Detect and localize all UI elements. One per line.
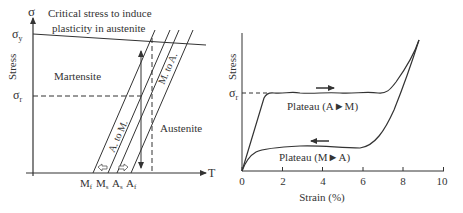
ms-line	[108, 30, 170, 173]
temperature-labels: Mf Ms As Af	[80, 177, 137, 191]
right-sigma-r-label: σr	[229, 86, 238, 102]
x-tick-labels: 0 2 4 6 8 10	[239, 175, 448, 187]
t-axis-symbol: T	[208, 166, 216, 180]
stress-strain-chart: 0 2 4 6 8 10 Strain (%) Stress σr Platea…	[226, 33, 448, 204]
sigma-axis-symbol: σ	[28, 4, 35, 19]
figure-canvas: σ T Stress σy σr Critical stress to indu…	[0, 0, 463, 213]
x-ticks	[242, 167, 444, 171]
svg-text:8: 8	[400, 175, 406, 187]
mf-line	[93, 30, 155, 173]
upper-plateau-label: Plateau (A►M)	[287, 100, 358, 113]
martensite-region-label: Martensite	[54, 70, 101, 82]
strain-axis-label: Strain (%)	[299, 191, 345, 204]
svg-text:4: 4	[320, 175, 326, 187]
svg-text:2: 2	[280, 175, 286, 187]
phase-diagram: σ T Stress σy σr Critical stress to indu…	[6, 4, 216, 191]
hollow-arrow-left	[98, 164, 107, 171]
svg-text:6: 6	[360, 175, 366, 187]
austenite-region-label: Austenite	[160, 122, 202, 134]
sigma-r-label: σr	[13, 88, 22, 104]
critical-stress-line	[33, 34, 206, 45]
svg-text:0: 0	[239, 175, 245, 187]
sigma-y-label: σy	[12, 27, 22, 43]
af-line	[131, 30, 193, 173]
critical-stress-label: Critical stress to induce plasticity in …	[48, 7, 154, 34]
right-stress-label: Stress	[226, 54, 238, 80]
stress-label: Stress	[6, 54, 18, 80]
lower-plateau-label: Plateau (M►A)	[279, 151, 350, 164]
svg-text:10: 10	[437, 175, 449, 187]
